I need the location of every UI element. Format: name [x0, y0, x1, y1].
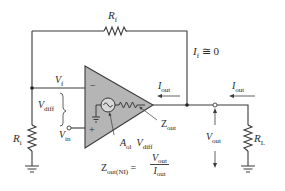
- vout-terminal-circle-icon: [213, 103, 217, 107]
- vout-arrowhead-down-icon: [213, 163, 217, 168]
- circuit-diagram: [0, 0, 285, 191]
- rf-label: Rf: [108, 10, 117, 21]
- rl-resistor-icon: [244, 125, 252, 151]
- iout-inner-label: Iout: [158, 81, 170, 91]
- opamp-triangle-icon: [85, 66, 153, 148]
- formula-fraction: Vout Iout: [150, 152, 169, 176]
- minus-sign: −: [90, 81, 96, 91]
- vf-label: Vf: [55, 75, 63, 85]
- vout-label: Vout: [206, 132, 221, 142]
- vout-arrowhead-up-icon: [213, 108, 217, 113]
- iout-outer-arrowhead-icon: [229, 94, 234, 98]
- iout-inner-arrowhead-icon: [157, 94, 162, 98]
- rl-ground-icon: [241, 166, 255, 172]
- ri-resistor-icon: [28, 125, 36, 151]
- plus-sign: +: [89, 125, 95, 135]
- ri-label: Ri: [13, 133, 22, 144]
- vin-label: Vin: [59, 130, 71, 140]
- vdiff-brace-icon: [60, 93, 66, 126]
- zout-label: Zout: [161, 119, 176, 129]
- rf-resistor-icon: [104, 27, 127, 35]
- formula-denominator: Iout: [150, 165, 169, 176]
- vdiff-label: Vdiff: [38, 100, 54, 110]
- output-node-dot-icon: [185, 103, 189, 107]
- zout-pointer-arrow: [141, 108, 157, 120]
- formula-numerator: Vout: [150, 152, 169, 165]
- ri-ground-icon: [25, 166, 39, 172]
- aol-vdiff-label: Aol Vdiff: [120, 138, 153, 148]
- iout-outer-label: Iout: [232, 81, 244, 91]
- if-label: If ≅ 0: [193, 46, 219, 57]
- rl-label: RL: [254, 133, 265, 144]
- inverting-node-dot-icon: [30, 86, 34, 90]
- formula-lhs: Zout(NI) =: [101, 163, 136, 173]
